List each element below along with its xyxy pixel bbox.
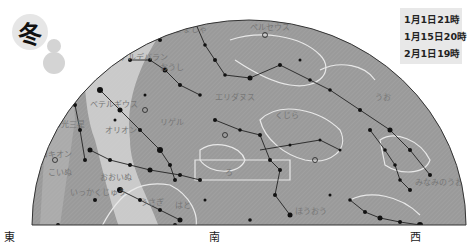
constellation-label: ほうおう: [295, 207, 327, 216]
constellation-label: ろ: [225, 168, 233, 177]
observation-times: 1月1日21時 1月15日20時 2月1日19時: [400, 8, 462, 64]
time-2: 1月15日20時: [404, 28, 462, 45]
constellation-label: オリオン: [105, 126, 137, 135]
direction-west: 西: [410, 228, 421, 244]
time-3: 2月1日19時: [404, 45, 462, 62]
constellation-label: リゲル: [160, 117, 184, 127]
constellation-label: いっかくじゅう: [70, 188, 126, 197]
constellation-label: こいぬ: [48, 168, 72, 177]
direction-south: 南: [209, 228, 220, 244]
constellation-label: はと: [175, 201, 191, 210]
time-1: 1月1日21時: [404, 11, 462, 28]
constellation-label: くじら: [275, 111, 299, 120]
constellation-label: エリダヌス: [215, 92, 255, 102]
constellation-label: みなみのうお: [415, 178, 463, 187]
snowman-icon: [34, 36, 74, 76]
constellation-label: うさぎ: [140, 197, 164, 207]
constellation-label: おうし: [160, 63, 184, 72]
constellation-label: ペルセウス: [250, 23, 290, 32]
direction-east: 東: [4, 228, 15, 244]
constellation-label: きの光三星: [45, 119, 85, 129]
constellation-label: ベテルギウス: [90, 100, 138, 109]
constellation-label: アルデバラン: [120, 52, 168, 62]
constellation-label: ぎょしゃ: [175, 24, 207, 34]
constellation-label: うお: [375, 93, 391, 102]
constellation-label: プロキオン: [32, 150, 72, 159]
constellation-label: おおいぬ: [100, 173, 132, 182]
